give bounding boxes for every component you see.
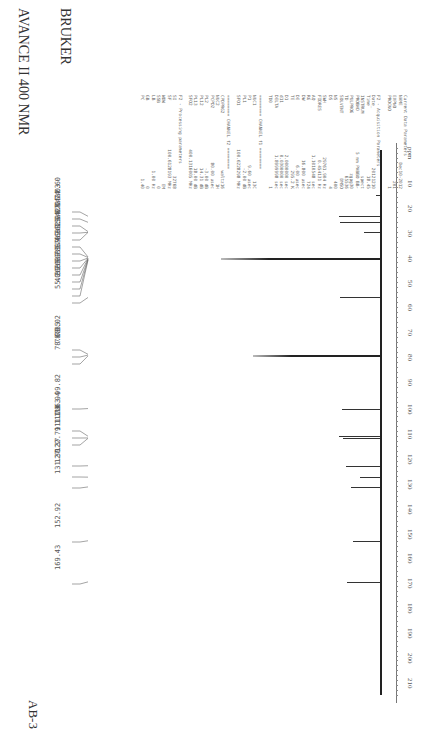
axis-minor-tick [396, 172, 398, 173]
axis-minor-tick [396, 307, 398, 308]
axis-minor-tick [396, 456, 398, 457]
axis-minor-tick [396, 426, 398, 427]
axis-minor-tick [396, 496, 398, 497]
spectrum-plot: 1020304050607080901001101201301401501601… [0, 0, 437, 735]
axis-tick-label: 50 [406, 280, 414, 287]
axis-minor-tick [396, 665, 398, 666]
axis-tick-label: 160 [406, 553, 414, 564]
spectrum-baseline [380, 150, 382, 695]
axis-minor-tick [396, 486, 398, 487]
axis-tick-label: 200 [406, 653, 414, 664]
axis-tick-label: 170 [406, 578, 414, 589]
axis-tick-label: 130 [406, 479, 414, 490]
axis-minor-tick [396, 446, 398, 447]
axis-minor-tick [396, 586, 398, 587]
axis-tick-label: 190 [406, 628, 414, 639]
axis-minor-tick [396, 257, 398, 258]
axis-minor-tick [396, 187, 398, 188]
axis-minor-tick [396, 596, 398, 597]
axis-minor-tick [396, 197, 398, 198]
axis-minor-tick [396, 566, 398, 567]
axis-minor-tick [396, 695, 398, 696]
axis-minor-tick [396, 675, 398, 676]
spectrum-peak [376, 195, 380, 196]
axis-minor-tick [396, 237, 398, 238]
axis-tick-label: 150 [406, 529, 414, 540]
axis-minor-tick [396, 272, 398, 273]
axis-minor-tick [396, 481, 398, 482]
axis-minor-tick [396, 177, 398, 178]
axis-minor-tick [396, 317, 398, 318]
spectrum-peak [368, 232, 380, 233]
axis-minor-tick [396, 332, 398, 333]
axis-minor-tick [396, 148, 398, 149]
axis-minor-tick [396, 546, 398, 547]
axis-minor-tick [396, 621, 398, 622]
axis-minor-tick [396, 397, 398, 398]
axis-minor-tick [396, 626, 398, 627]
axis-minor-tick [396, 158, 398, 159]
axis-tick-label: 80 [406, 354, 414, 361]
spectrum-peak [253, 355, 380, 357]
axis-minor-tick [396, 217, 398, 218]
spectrum-peak [353, 541, 380, 542]
spectrum-peak [343, 438, 380, 439]
axis-minor-tick [396, 641, 398, 642]
axis-minor-tick [396, 646, 398, 647]
axis-tick-label: 20 [406, 205, 414, 212]
axis-minor-tick [396, 471, 398, 472]
axis-minor-tick [396, 506, 398, 507]
axis-minor-tick [396, 202, 398, 203]
axis-minor-tick [396, 287, 398, 288]
spectrum-peak [360, 477, 380, 478]
axis-tick-label: 100 [406, 404, 414, 415]
axis-minor-tick [396, 581, 398, 582]
axis-tick-label: 90 [406, 379, 414, 386]
axis-minor-tick [396, 252, 398, 253]
axis-minor-tick [396, 357, 398, 358]
axis-minor-tick [396, 476, 398, 477]
axis-tick-label: 140 [406, 504, 414, 515]
axis-tick-label: 60 [406, 304, 414, 311]
axis-minor-tick [396, 302, 398, 303]
axis-minor-tick [396, 441, 398, 442]
axis-tick-label: 30 [406, 230, 414, 237]
axis-minor-tick [396, 636, 398, 637]
axis-minor-tick [396, 656, 398, 657]
axis-minor-tick [396, 207, 398, 208]
axis-minor-tick [396, 247, 398, 248]
axis-minor-tick [396, 556, 398, 557]
axis-minor-tick [396, 347, 398, 348]
axis-minor-tick [396, 372, 398, 373]
spectrum-peak [342, 409, 380, 410]
axis-minor-tick [396, 322, 398, 323]
axis-minor-tick [396, 212, 398, 213]
axis-minor-tick [396, 327, 398, 328]
axis-minor-tick [396, 297, 398, 298]
axis-minor-tick [396, 377, 398, 378]
axis-minor-tick [396, 690, 398, 691]
axis-minor-tick [396, 262, 398, 263]
axis-minor-tick [396, 531, 398, 532]
axis-minor-tick [396, 461, 398, 462]
axis-minor-tick [396, 571, 398, 572]
axis-tick-label: 120 [406, 454, 414, 465]
spectrum-peak [340, 297, 380, 298]
axis-tick-label: 180 [406, 603, 414, 614]
axis-minor-tick [396, 511, 398, 512]
axis-minor-tick [396, 402, 398, 403]
axis-minor-tick [396, 541, 398, 542]
axis-minor-tick [396, 660, 398, 661]
spectrum-peak [339, 216, 380, 217]
axis-minor-tick [396, 431, 398, 432]
axis-minor-tick [396, 277, 398, 278]
axis-minor-tick [396, 192, 398, 193]
axis-minor-tick [396, 421, 398, 422]
axis-minor-tick [396, 222, 398, 223]
axis-minor-tick [396, 591, 398, 592]
axis-tick-label: 210 [406, 678, 414, 689]
peak-label: 169.43 [54, 545, 62, 570]
axis-minor-tick [396, 631, 398, 632]
axis-minor-tick [396, 521, 398, 522]
axis-minor-tick [396, 536, 398, 537]
